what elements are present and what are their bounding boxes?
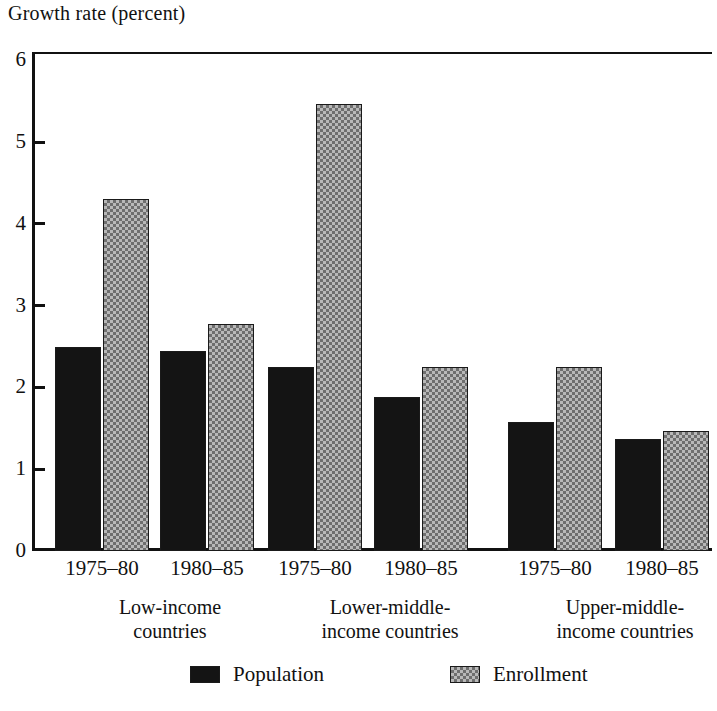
period-label: 1975–80	[278, 556, 352, 581]
bar-enrollment	[422, 367, 468, 551]
bar-population	[268, 367, 314, 551]
period-label: 1980–85	[625, 556, 699, 581]
group-label-line-1: Lower-middle-	[321, 596, 458, 620]
bar-enrollment	[208, 324, 254, 551]
group-label: Upper-middle-income countries	[556, 596, 693, 643]
group-label: Lower-middle-income countries	[321, 596, 458, 643]
bar-enrollment	[316, 104, 362, 551]
legend-item-population: Population	[190, 662, 324, 687]
bar-enrollment	[556, 367, 602, 551]
legend-swatch-population	[190, 666, 220, 683]
period-label: 1975–80	[65, 556, 139, 581]
group-label: Low-incomecountries	[119, 596, 221, 643]
group-label-line-2: income countries	[556, 620, 693, 644]
legend-item-enrollment: Enrollment	[450, 662, 587, 687]
bar-population	[615, 439, 661, 551]
group-label-line-1: Upper-middle-	[556, 596, 693, 620]
group-label-line-2: income countries	[321, 620, 458, 644]
bar-enrollment	[103, 199, 149, 551]
group-label-line-2: countries	[119, 620, 221, 644]
chart-legend: PopulationEnrollment	[0, 662, 717, 702]
period-label: 1980–85	[384, 556, 458, 581]
bar-enrollment	[663, 431, 709, 551]
period-label: 1980–85	[170, 556, 244, 581]
period-label: 1975–80	[518, 556, 592, 581]
bar-population	[374, 397, 420, 551]
bar-population	[508, 422, 554, 551]
growth-rate-bar-chart: Growth rate (percent) 6543210 1975–80198…	[0, 0, 717, 711]
group-label-line-1: Low-income	[119, 596, 221, 620]
legend-swatch-enrollment	[450, 666, 480, 683]
bar-population	[160, 351, 206, 551]
legend-label-population: Population	[233, 662, 324, 687]
legend-label-enrollment: Enrollment	[493, 662, 587, 687]
bar-population	[55, 347, 101, 552]
